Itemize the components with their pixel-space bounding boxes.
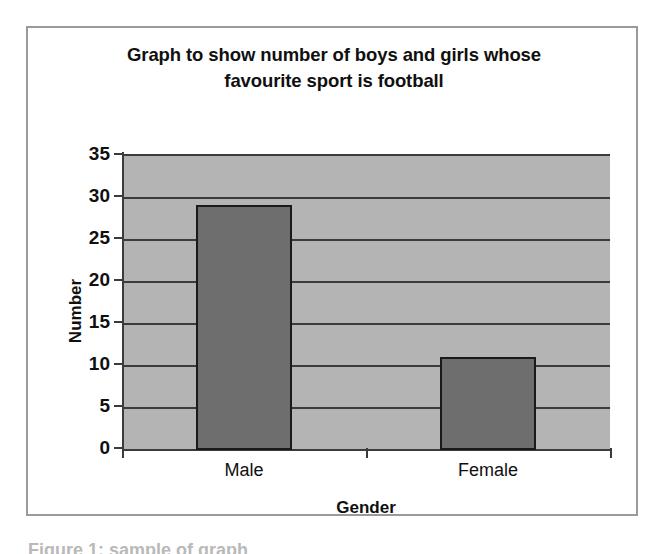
x-axis-tick — [366, 448, 368, 458]
plot-area — [122, 154, 610, 450]
bar-female — [440, 357, 536, 450]
chart-figure-card: Graph to show number of boys and girls w… — [26, 26, 638, 516]
y-axis-spine — [122, 152, 124, 450]
y-axis-tick — [114, 237, 122, 239]
x-axis-title: Gender — [122, 498, 610, 518]
plot-wrapper: 35302520151050 Number MaleFemale Gender — [28, 28, 640, 518]
gridline — [122, 197, 610, 199]
y-axis-tick — [114, 321, 122, 323]
x-axis-tick — [610, 448, 612, 458]
y-axis-tick-label: 30 — [70, 185, 110, 207]
y-axis-tick — [114, 153, 122, 155]
figure-caption-partial: Figure 1: sample of graph — [28, 540, 428, 554]
y-axis-title: Number — [66, 251, 86, 371]
bar-male — [196, 205, 292, 450]
y-axis-tick — [114, 363, 122, 365]
y-axis-tick-label: 5 — [70, 395, 110, 417]
y-axis-tick-label: 25 — [70, 227, 110, 249]
y-axis-tick — [114, 195, 122, 197]
y-axis-tick-label: 35 — [70, 143, 110, 165]
y-axis-tick — [114, 405, 122, 407]
y-axis-tick — [114, 279, 122, 281]
y-axis-tick — [114, 447, 122, 449]
x-axis-label-female: Female — [366, 460, 610, 481]
x-axis-tick — [122, 448, 124, 458]
x-axis-label-male: Male — [122, 460, 366, 481]
y-axis-tick-label: 0 — [70, 437, 110, 459]
